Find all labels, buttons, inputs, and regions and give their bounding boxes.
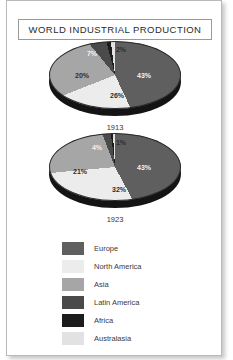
legend-label-north-america: North America (94, 262, 142, 271)
legend-label-europe: Europe (94, 244, 118, 253)
legend-swatch-icon-asia (62, 278, 84, 291)
pie-chart-1913: 43% 26% 20% 7% 2% 1913 (7, 39, 222, 119)
legend-label-australasia: Australasia (94, 334, 131, 343)
year-label-1923: 1923 (7, 215, 222, 224)
slice-label-europe-1923: 43% (137, 164, 151, 171)
legend-swatch-icon-latin-america (62, 296, 84, 309)
legend-swatch-icon-north-america (62, 260, 84, 273)
slice-label-north-america-1923: 32% (112, 186, 126, 193)
slice-label-north-america-1913: 26% (110, 92, 124, 99)
legend-swatch-icon-europe (62, 242, 84, 255)
slice-label-asia-1913: 20% (75, 72, 89, 79)
chart-title-box: WORLD INDUSTRIAL PRODUCTION (18, 19, 212, 40)
slice-label-africa-1923: 1% (116, 139, 126, 146)
legend-swatch-icon-australasia (62, 332, 84, 345)
legend-item-north-america: North America (62, 258, 212, 275)
pie-graphic-1923: 43% 32% 21% 4% 1% (49, 131, 181, 211)
slice-label-asia-1923: 21% (73, 168, 87, 175)
legend-item-africa: Africa (62, 312, 212, 329)
pie-graphic-1913: 43% 26% 20% 7% 2% (49, 39, 181, 119)
legend-item-australasia: Australasia (62, 330, 212, 347)
legend-label-latin-america: Latin America (94, 298, 139, 307)
legend-item-europe: Europe (62, 240, 212, 257)
page-title: WORLD INDUSTRIAL PRODUCTION (29, 24, 202, 35)
legend-item-latin-america: Latin America (62, 294, 212, 311)
chart-legend: Europe North America Asia Latin America … (62, 240, 212, 348)
document-page: WORLD INDUSTRIAL PRODUCTION 43% 26% 20% … (6, 0, 222, 356)
slice-label-africa-1913: 2% (116, 46, 126, 53)
slice-label-latin-america-1923: 4% (92, 144, 102, 151)
slice-label-europe-1913: 43% (137, 72, 151, 79)
slice-label-latin-america-1913: 7% (87, 50, 97, 57)
legend-label-africa: Africa (94, 316, 113, 325)
pie-chart-1923: 43% 32% 21% 4% 1% 1923 (7, 131, 222, 211)
legend-swatch-icon-africa (62, 314, 84, 327)
legend-item-asia: Asia (62, 276, 212, 293)
legend-label-asia: Asia (94, 280, 109, 289)
